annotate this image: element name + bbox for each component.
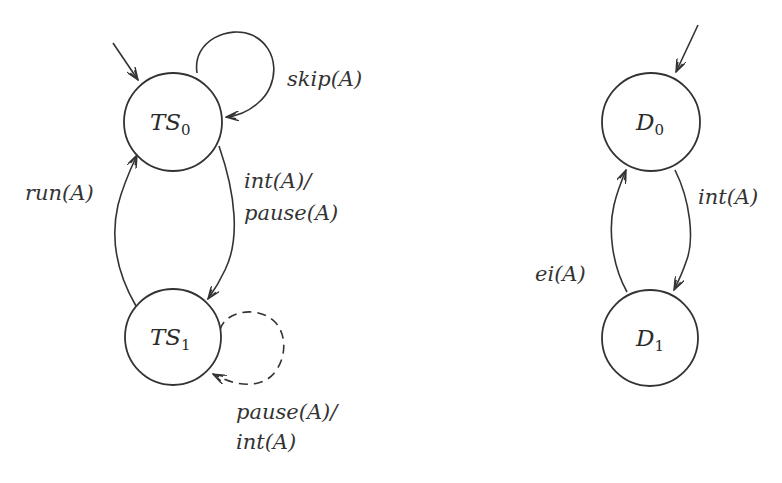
- label-skip: skip(A): [287, 67, 362, 91]
- state-diagram-canvas: TS0 TS1 skip(A) int(A)/ pause(A) run(A) …: [0, 0, 782, 483]
- transition-d0-d1: [674, 170, 690, 290]
- initial-arrow-ts0: [113, 43, 138, 80]
- state-ts1: TS1: [125, 289, 221, 385]
- transition-d1-d0: [611, 170, 627, 292]
- label-pause-int-line1: pause(A)/: [236, 400, 339, 424]
- d-machine: D0 D1 int(A) ei(A): [535, 25, 758, 386]
- ts-machine: TS0 TS1 skip(A) int(A)/ pause(A) run(A) …: [25, 32, 362, 454]
- state-d0: D0: [602, 73, 700, 171]
- transition-ts0-ts1: [208, 146, 234, 299]
- transition-ts1-self-dashed: [213, 312, 284, 384]
- state-d1: D1: [602, 290, 698, 386]
- label-int-pause-line2: pause(A): [244, 201, 338, 225]
- initial-arrow-d0: [676, 25, 698, 72]
- label-ei: ei(A): [535, 262, 586, 286]
- label-int-d: int(A): [698, 185, 758, 209]
- state-ts0: TS0: [124, 73, 222, 171]
- label-int-pause-line1: int(A)/: [244, 169, 313, 193]
- diagram-svg: TS0 TS1 skip(A) int(A)/ pause(A) run(A) …: [0, 0, 782, 483]
- transition-ts1-ts0: [115, 155, 137, 306]
- label-pause-int-line2: int(A): [236, 430, 296, 454]
- label-run: run(A): [25, 181, 94, 205]
